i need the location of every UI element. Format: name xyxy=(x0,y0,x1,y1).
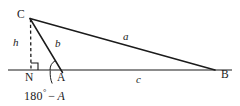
exterior-angle-arc xyxy=(50,61,56,71)
minus-operator: − xyxy=(46,89,57,103)
vertex-label-n: N xyxy=(25,72,34,84)
vertex-label-c: C xyxy=(17,9,25,21)
altitude-label-h: h xyxy=(13,37,19,48)
side-label-c: c xyxy=(136,74,141,85)
geometry-figure: C A B N a b c h 180°−A xyxy=(0,0,240,106)
exterior-angle-expression: 180°−A xyxy=(24,88,65,102)
side-label-a: a xyxy=(123,31,129,42)
vertex-label-b: B xyxy=(221,69,229,81)
right-angle-mark xyxy=(31,63,38,70)
vertex-label-a: A xyxy=(57,72,66,84)
angle-leader-line xyxy=(50,71,52,84)
angle-variable: A xyxy=(57,89,65,103)
side-label-b: b xyxy=(55,38,61,49)
angle-value: 180 xyxy=(24,89,43,103)
altitude-h-line xyxy=(31,19,32,70)
